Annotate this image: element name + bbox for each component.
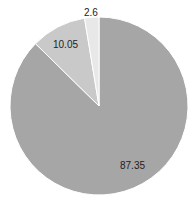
data-label-slice-b: 10.05	[53, 39, 78, 50]
data-label-slice-a: 87.35	[120, 160, 145, 171]
pie-slices	[10, 17, 188, 195]
pie-chart: 87.35 10.05 2.6	[0, 0, 195, 204]
data-label-slice-c: 2.6	[84, 7, 98, 18]
